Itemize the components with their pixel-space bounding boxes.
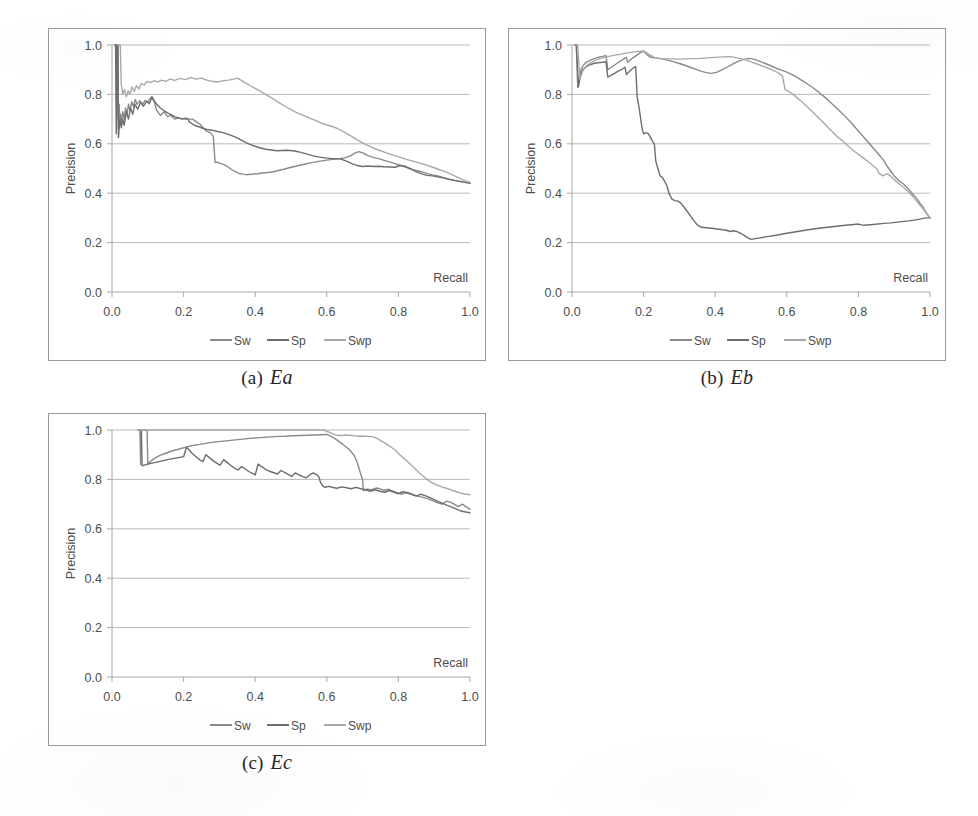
legend-label-swp: Swp — [348, 334, 372, 348]
series-line-swp — [576, 45, 930, 218]
legend: SwSpSwp — [210, 719, 372, 733]
y-tick-label-1.0: 1.0 — [85, 424, 102, 438]
y-tick-label-0.4: 0.4 — [85, 572, 102, 586]
y-tick-label-0.0: 0.0 — [85, 286, 102, 300]
y-axis-title: Precision — [524, 143, 538, 194]
caption-b: (b)Eb — [508, 366, 946, 389]
series-line-sw — [575, 45, 930, 218]
legend-label-swp: Swp — [348, 719, 372, 733]
chart-c-svg: 0.00.20.40.60.81.00.00.20.40.60.81.0Prec… — [49, 414, 487, 747]
caption-c-index: (c) — [242, 752, 264, 773]
x-tick-label-1.0: 1.0 — [461, 305, 478, 319]
y-axis-title: Precision — [64, 528, 78, 579]
legend-label-sp: Sp — [291, 719, 306, 733]
x-tick-label-0.4: 0.4 — [247, 690, 264, 704]
x-tick-label-0.0: 0.0 — [103, 305, 120, 319]
x-tick-label-1.0: 1.0 — [461, 690, 478, 704]
x-tick-label-0.4: 0.4 — [247, 305, 264, 319]
x-tick-label-0.8: 0.8 — [390, 690, 407, 704]
y-axis-title: Precision — [64, 143, 78, 194]
legend-label-sw: Sw — [694, 334, 711, 348]
figure-panel-b: 0.00.20.40.60.81.00.00.20.40.60.81.0Prec… — [508, 28, 946, 396]
chart-b-frame: 0.00.20.40.60.81.00.00.20.40.60.81.0Prec… — [508, 28, 946, 361]
caption-a-symbol: Ea — [263, 366, 293, 388]
legend-label-swp: Swp — [808, 334, 832, 348]
legend-label-sp: Sp — [291, 334, 306, 348]
x-tick-label-0.8: 0.8 — [390, 305, 407, 319]
series-line-sp — [575, 45, 930, 239]
y-tick-label-0.2: 0.2 — [85, 236, 102, 250]
x-axis-title: Recall — [433, 271, 468, 285]
x-tick-label-0.6: 0.6 — [318, 305, 335, 319]
series-group — [115, 45, 470, 183]
x-tick-label-1.0: 1.0 — [921, 305, 938, 319]
y-tick-label-0.6: 0.6 — [85, 137, 102, 151]
x-tick-label-0.0: 0.0 — [103, 690, 120, 704]
y-tick-label-0.8: 0.8 — [85, 88, 102, 102]
x-axis-title: Recall — [433, 656, 468, 670]
series-group — [138, 430, 470, 513]
x-tick-label-0.6: 0.6 — [778, 305, 795, 319]
figure-panel-c: 0.00.20.40.60.81.00.00.20.40.60.81.0Prec… — [48, 413, 486, 781]
y-tick-label-0.0: 0.0 — [85, 671, 102, 685]
series-line-sp — [140, 430, 470, 513]
caption-b-symbol: Eb — [724, 366, 754, 388]
y-tick-label-0.6: 0.6 — [85, 522, 102, 536]
y-tick-label-0.2: 0.2 — [85, 621, 102, 635]
legend: SwSpSwp — [210, 334, 372, 348]
legend-label-sw: Sw — [234, 719, 251, 733]
gridlines — [572, 45, 930, 243]
y-tick-label-0.4: 0.4 — [85, 187, 102, 201]
legend-label-sw: Sw — [234, 334, 251, 348]
y-tick-label-0.6: 0.6 — [545, 137, 562, 151]
x-tick-label-0.6: 0.6 — [318, 690, 335, 704]
legend: SwSpSwp — [670, 334, 832, 348]
series-line-sw — [138, 430, 470, 509]
gridlines — [112, 45, 470, 243]
chart-b-svg: 0.00.20.40.60.81.00.00.20.40.60.81.0Prec… — [509, 29, 947, 362]
x-tick-label-0.2: 0.2 — [635, 305, 652, 319]
chart-a-svg: 0.00.20.40.60.81.00.00.20.40.60.81.0Prec… — [49, 29, 487, 362]
y-tick-label-0.8: 0.8 — [85, 473, 102, 487]
y-tick-label-1.0: 1.0 — [545, 39, 562, 53]
x-tick-label-0.2: 0.2 — [175, 690, 192, 704]
x-axis-title: Recall — [893, 271, 928, 285]
figure-panel-a: 0.00.20.40.60.81.00.00.20.40.60.81.0Prec… — [48, 28, 486, 396]
caption-a: (a)Ea — [48, 366, 486, 389]
caption-c: (c)Ec — [48, 751, 486, 774]
chart-c-frame: 0.00.20.40.60.81.00.00.20.40.60.81.0Prec… — [48, 413, 486, 746]
caption-c-symbol: Ec — [264, 751, 293, 773]
y-tick-label-0.8: 0.8 — [545, 88, 562, 102]
y-tick-label-0.0: 0.0 — [545, 286, 562, 300]
x-tick-label-0.0: 0.0 — [563, 305, 580, 319]
x-tick-label-0.8: 0.8 — [850, 305, 867, 319]
chart-a-frame: 0.00.20.40.60.81.00.00.20.40.60.81.0Prec… — [48, 28, 486, 361]
y-tick-label-0.4: 0.4 — [545, 187, 562, 201]
series-line-swp — [139, 430, 470, 495]
caption-b-index: (b) — [701, 367, 724, 388]
series-group — [575, 45, 930, 239]
caption-a-index: (a) — [241, 367, 263, 388]
x-tick-label-0.4: 0.4 — [707, 305, 724, 319]
legend-label-sp: Sp — [751, 334, 766, 348]
x-tick-label-0.2: 0.2 — [175, 305, 192, 319]
y-tick-label-1.0: 1.0 — [85, 39, 102, 53]
y-tick-label-0.2: 0.2 — [545, 236, 562, 250]
